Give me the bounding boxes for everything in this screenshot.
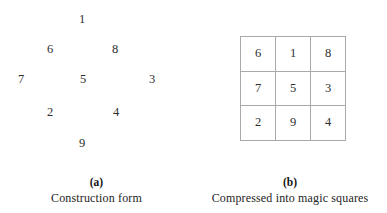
panel-construction-form: 1 6 8 7 5 3 2 4 9 (a) Construction form [0,0,193,213]
table-row: 6 1 8 [241,37,346,72]
magic-cell-r0c2: 8 [311,37,346,72]
diamond-node-5: 5 [75,71,91,87]
panel-a-caption-text: Construction form [0,190,193,207]
magic-cell-r2c2: 4 [311,106,346,141]
table-row: 2 9 4 [241,106,346,141]
panel-a-caption-tag: (a) [0,175,193,190]
magic-cell-r0c0: 6 [241,37,276,72]
magic-cell-r1c0: 7 [241,71,276,106]
diamond-node-8: 8 [107,41,123,57]
table-row: 7 5 3 [241,71,346,106]
magic-cell-r0c1: 1 [276,37,311,72]
magic-cell-r2c0: 2 [241,106,276,141]
diamond-node-6: 6 [42,41,58,57]
magic-square-figure: 1 6 8 7 5 3 2 4 9 (a) Construction form … [0,0,387,213]
diamond-node-7: 7 [13,71,29,87]
diamond-node-1: 1 [74,11,90,27]
panel-a-caption: (a) Construction form [0,175,193,207]
diamond-node-4: 4 [108,104,124,120]
diamond-node-3: 3 [144,71,160,87]
magic-cell-r1c2: 3 [311,71,346,106]
diamond-node-2: 2 [42,104,58,120]
magic-cell-r1c1: 5 [276,71,311,106]
panel-b-caption-text: Compressed into magic squares [193,190,387,207]
diamond-node-9: 9 [74,135,90,151]
magic-cell-r2c1: 9 [276,106,311,141]
panel-compressed-magic-square: 6 1 8 7 5 3 2 9 4 (b) Compressed into ma… [193,0,387,213]
panel-b-caption-tag: (b) [193,175,387,190]
magic-square-grid: 6 1 8 7 5 3 2 9 4 [240,36,346,141]
panel-b-caption: (b) Compressed into magic squares [193,175,387,207]
